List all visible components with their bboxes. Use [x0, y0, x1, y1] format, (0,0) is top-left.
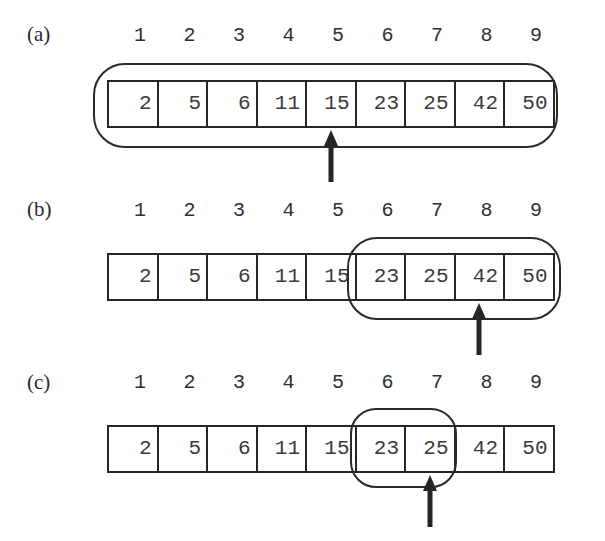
- array-cell: 5: [157, 425, 209, 473]
- index-label: 8: [472, 371, 502, 394]
- index-label: 2: [175, 199, 205, 222]
- index-label: 6: [373, 199, 403, 222]
- array-cell: 6: [206, 253, 258, 301]
- index-label: 5: [323, 24, 353, 47]
- array-cell: 25: [404, 253, 456, 301]
- array-cell: 23: [355, 253, 407, 301]
- array-cell: 2: [107, 80, 159, 128]
- index-label: 9: [521, 199, 551, 222]
- array-cell: 2: [107, 425, 159, 473]
- index-label: 5: [323, 371, 353, 394]
- panel-label: (a): [27, 22, 50, 47]
- index-label: 4: [274, 199, 304, 222]
- array-cell: 25: [404, 80, 456, 128]
- binary-search-diagram: (a)123456789256111523254250(b)1234567892…: [0, 0, 605, 541]
- array-cell: 50: [503, 80, 555, 128]
- array-cell: 50: [503, 425, 555, 473]
- array-cell: 23: [355, 425, 407, 473]
- array-cell: 23: [355, 80, 407, 128]
- index-label: 4: [274, 24, 304, 47]
- index-label: 5: [323, 199, 353, 222]
- array-cell: 11: [256, 253, 308, 301]
- array-cell: 11: [256, 80, 308, 128]
- index-label: 1: [125, 199, 155, 222]
- array-cell: 42: [454, 253, 506, 301]
- index-label: 3: [224, 199, 254, 222]
- array-cell: 50: [503, 253, 555, 301]
- index-label: 3: [224, 371, 254, 394]
- index-label: 6: [373, 371, 403, 394]
- index-label: 7: [422, 371, 452, 394]
- array-cell: 6: [206, 80, 258, 128]
- array-cell: 42: [454, 425, 506, 473]
- array-cell: 5: [157, 80, 209, 128]
- index-label: 7: [422, 24, 452, 47]
- array-cell: 15: [305, 253, 357, 301]
- panel-label: (b): [27, 197, 52, 222]
- array-cell: 42: [454, 80, 506, 128]
- index-label: 7: [422, 199, 452, 222]
- array-cell: 6: [206, 425, 258, 473]
- index-label: 1: [125, 371, 155, 394]
- array-cell: 15: [305, 425, 357, 473]
- index-label: 4: [274, 371, 304, 394]
- array-cell: 2: [107, 253, 159, 301]
- array-cell: 25: [404, 425, 456, 473]
- array-cell: 11: [256, 425, 308, 473]
- array-cell: 15: [305, 80, 357, 128]
- pointer-arrow-icon: [469, 303, 489, 355]
- panel-label: (c): [27, 370, 50, 395]
- index-label: 6: [373, 24, 403, 47]
- index-label: 1: [125, 24, 155, 47]
- pointer-arrow-icon: [420, 475, 440, 527]
- index-label: 3: [224, 24, 254, 47]
- index-label: 8: [472, 199, 502, 222]
- index-label: 8: [472, 24, 502, 47]
- pointer-arrow-icon: [321, 130, 341, 182]
- array-cell: 5: [157, 253, 209, 301]
- index-label: 2: [175, 24, 205, 47]
- index-label: 9: [521, 371, 551, 394]
- index-label: 9: [521, 24, 551, 47]
- index-label: 2: [175, 371, 205, 394]
